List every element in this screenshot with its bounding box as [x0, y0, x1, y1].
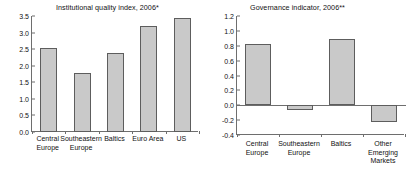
bar — [74, 73, 91, 132]
y-axis-tick-label: 3.0 — [19, 29, 29, 36]
y-axis-tick-mark — [237, 120, 240, 121]
y-axis-tick-label: 0.5 — [19, 112, 29, 119]
y-axis-tick-label: 3.5 — [19, 13, 29, 20]
x-axis-tick-mark — [363, 134, 364, 137]
y-axis-tick-mark — [32, 49, 35, 50]
y-axis-tick-label: 0.6 — [224, 57, 234, 64]
y-axis-tick-mark — [237, 30, 240, 31]
y-axis-tick-mark — [237, 90, 240, 91]
bar — [329, 39, 355, 105]
y-axis-tick-mark — [32, 115, 35, 116]
y-axis-tick-label: -0.4 — [222, 132, 234, 139]
x-axis-tick-mark — [321, 134, 322, 137]
bar — [174, 18, 191, 132]
bar — [40, 48, 57, 132]
x-axis-category-label: US — [158, 135, 205, 144]
plot-area-left: 0.00.51.01.52.02.53.03.5 — [31, 16, 198, 132]
y-axis-tick-mark — [237, 60, 240, 61]
plot-area-right: -0.4-0.20.00.20.40.60.81.01.2 — [236, 16, 404, 135]
x-axis-tick-mark — [99, 131, 100, 134]
y-axis-tick-mark — [237, 75, 240, 76]
y-axis-tick-mark — [32, 98, 35, 99]
x-axis-tick-mark — [132, 131, 133, 134]
y-axis-tick-label: 0.8 — [224, 42, 234, 49]
y-axis-tick-label: 2.0 — [19, 62, 29, 69]
chart-title-right: Governance indicator, 2006** — [250, 3, 345, 12]
y-axis-tick-label: 0.4 — [224, 72, 234, 79]
y-axis-tick-label: -0.2 — [222, 117, 234, 124]
x-axis-category-label: Other Emerging Markets — [354, 140, 410, 166]
x-axis-tick-mark — [32, 131, 33, 134]
x-axis-tick-mark — [166, 131, 167, 134]
x-axis-tick-mark — [405, 134, 406, 137]
y-axis-tick-mark — [32, 82, 35, 83]
x-axis-tick-mark — [199, 131, 200, 134]
y-axis-tick-label: 0.0 — [224, 102, 234, 109]
y-axis-tick-label: 1.0 — [19, 95, 29, 102]
chart-title-left: Institutional quality index, 2006* — [56, 3, 159, 12]
y-axis-tick-mark — [237, 45, 240, 46]
y-axis-tick-label: 1.5 — [19, 79, 29, 86]
y-axis-tick-mark — [32, 65, 35, 66]
bar — [245, 44, 271, 105]
y-axis-tick-mark — [32, 32, 35, 33]
y-axis-tick-label: 1.0 — [224, 27, 234, 34]
bar — [140, 26, 157, 132]
x-axis-tick-mark — [65, 131, 66, 134]
bar — [371, 105, 397, 121]
chart-panel-institutional-quality: Institutional quality index, 2006* 0.00.… — [0, 0, 205, 171]
bar — [287, 105, 313, 109]
y-axis-tick-mark — [237, 16, 240, 17]
y-axis-tick-label: 0.2 — [224, 87, 234, 94]
y-axis-tick-mark — [32, 16, 35, 17]
x-axis-tick-mark — [279, 134, 280, 137]
figure-container: Institutional quality index, 2006* 0.00.… — [0, 0, 410, 171]
y-axis-tick-label: 2.5 — [19, 46, 29, 53]
x-axis-tick-mark — [237, 134, 238, 137]
bar — [107, 53, 124, 132]
y-axis-tick-label: 1.2 — [224, 13, 234, 20]
chart-panel-governance-indicator: Governance indicator, 2006** -0.4-0.20.0… — [205, 0, 410, 171]
